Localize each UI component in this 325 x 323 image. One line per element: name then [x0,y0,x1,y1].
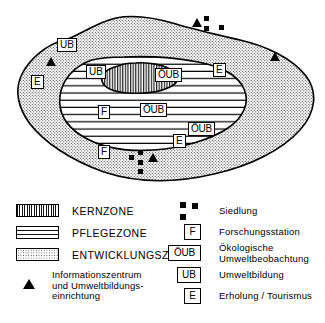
triangle-icon-bottom [148,153,158,162]
legend-label-siedlung: Siedlung [219,206,258,217]
legend-label-forschungsstation: Forschungsstation [219,227,300,238]
legend-swatch-pflegezone [16,226,59,239]
triangle-icon-left [46,57,56,66]
map-label-e-inner-right: E [213,63,226,77]
triangle-icon-right [270,52,280,61]
map-label-oub-lower-right: ÖUB [188,122,215,136]
legend-label-pflegezone: PFLEGEZONE [72,227,147,239]
map-label-ub-outer-left: UB [57,38,77,52]
legend-label-oekologische-line2: Umweltbeobachtung [219,254,309,265]
legend-box-forschungsstation: F [184,224,201,240]
legend-label-kernzone: KERNZONE [72,205,134,217]
legend-label-oekologische-line1: Ökologische [219,243,309,254]
legend-box-erholung-tourismus: E [184,288,201,304]
map-svg [0,0,325,186]
triangle-icon-legend [23,279,35,289]
legend-label-oekologische-umweltbeobachtung: Ökologische Umweltbeobachtung [219,243,309,264]
legend-swatch-entwicklungszone [16,248,59,261]
triangle-icon-top [192,18,202,27]
map-label-e-lower-right: E [173,134,186,148]
legend-label-umweltbildung: Umweltbildung [219,270,284,281]
map-label-oub-mid: ÖUB [140,103,167,117]
map-label-e-outer-left: E [31,75,44,89]
legend-box-umweltbildung: UB [177,267,201,283]
zoning-map: UB E UB ÖUB E F ÖUB ÖUB E F [0,0,325,186]
map-label-ub-inner-left: UB [86,65,106,79]
map-label-f-inner: F [98,105,110,119]
legend-label-erholung-tourismus: Erholung / Tourismus [219,291,312,302]
legend-label-informationszentrum-line1: Informationszentrum [52,270,144,281]
legend-box-oekologische-umweltbeobachtung: ÖUB [168,245,201,261]
legend-label-informationszentrum-line3: einrichtung [52,291,144,302]
map-label-f-outer: F [98,145,110,159]
map-label-oub-core: ÖUB [155,68,182,82]
legend: KERNZONE PFLEGEZONE ENTWICKLUNGSZONE Inf… [0,186,325,323]
legend-label-informationszentrum: Informationszentrum und Umweltbildungs- … [52,270,144,302]
legend-swatch-kernzone [16,204,59,217]
